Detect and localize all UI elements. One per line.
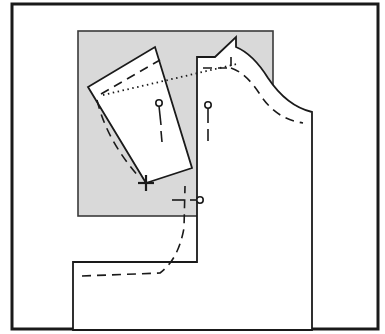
notch-tick [161, 131, 162, 142]
notch-circle-icon [205, 102, 211, 108]
notch-circle-icon [156, 100, 162, 106]
diagram-canvas [0, 0, 385, 334]
pattern-diagram-svg [0, 0, 385, 334]
grainline-circle-icon [197, 197, 203, 203]
